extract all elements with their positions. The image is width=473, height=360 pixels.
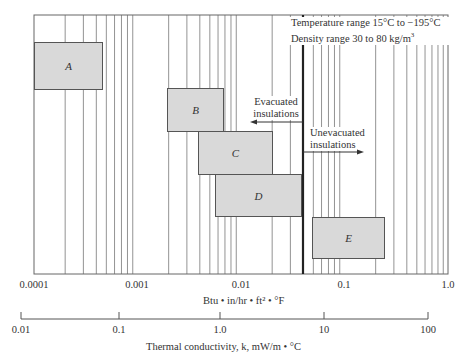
box-label: C [232,147,239,159]
unevacuated-arrow-icon [303,147,365,157]
primary-tick-label: 0.001 [125,279,149,290]
primary-tick-label: 0.1 [337,279,350,290]
density-range-text: Density range 30 to 80 kg/m3 [291,29,449,45]
primary-axis-label: Btu • in/hr • ft² • °F [203,295,284,307]
primary-tick-label: 0.0001 [20,279,49,290]
condition-annotation: Temperature range 15°C to −195°C Density… [289,17,449,45]
secondary-tick-label: 0.01 [12,324,30,335]
primary-tick-label: 0.01 [232,279,250,290]
secondary-tick-label: 10 [319,324,330,335]
evacuated-line1: Evacuated [251,96,301,108]
secondary-tick-label: 0.1 [112,324,125,335]
secondary-tick-label: 100 [420,324,436,335]
range-box-a: A [34,42,103,90]
box-label: A [65,60,72,72]
range-box-d: D [215,174,302,217]
range-box-c: C [198,131,273,175]
unevacuated-line1: Unevacuated [310,127,366,139]
density-text: Density range 30 to 80 kg/m [291,33,411,44]
evacuated-arrow-icon [250,117,305,127]
box-label: E [345,232,352,244]
secondary-axis-label: Thermal conductivity, k, mW/m • °C [146,341,301,353]
box-label: D [255,190,263,202]
range-box-e: E [312,217,385,259]
secondary-tick-label: 1.0 [213,324,226,335]
box-label: B [192,104,199,116]
range-box-b: B [167,88,224,132]
temperature-range-text: Temperature range 15°C to −195°C [291,17,449,29]
density-exponent: 3 [411,31,415,39]
primary-tick-label: 1.0 [441,279,454,290]
